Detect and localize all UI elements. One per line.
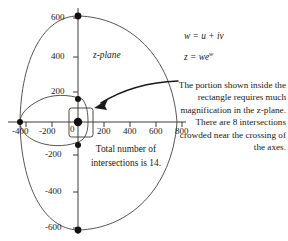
x-tick-label-200: 200 bbox=[97, 126, 111, 136]
axes-group bbox=[8, 8, 186, 234]
equation-z: z = wew bbox=[184, 45, 284, 66]
callout-arrow bbox=[101, 81, 178, 103]
y-tick-label-600: 600 bbox=[51, 12, 65, 22]
y-tick-label--200: -200 bbox=[45, 149, 62, 159]
dot-left bbox=[17, 119, 23, 125]
dot-lower bbox=[75, 142, 81, 148]
x-tick-label-400: 400 bbox=[123, 126, 137, 136]
outer-oval-curve bbox=[20, 16, 177, 230]
y-tick-label-400: 400 bbox=[51, 51, 65, 61]
equation-w: w = u + iv bbox=[184, 27, 284, 45]
x-tick-label-0: 0 bbox=[70, 124, 75, 134]
dot-upper bbox=[75, 96, 81, 102]
y-tick-label--600: -600 bbox=[45, 222, 62, 232]
x-tick-label--200: -200 bbox=[39, 126, 56, 136]
side-note: The portion shown inside the rectangle r… bbox=[176, 79, 286, 153]
z-plane-label: z-plane bbox=[93, 50, 121, 60]
y-tick-label--400: -400 bbox=[45, 186, 62, 196]
callout-arrowhead bbox=[94, 99, 108, 110]
intersection-dots bbox=[17, 13, 82, 234]
x-tick-label-600: 600 bbox=[149, 126, 163, 136]
y-tick-label-200: 200 bbox=[51, 86, 65, 96]
dot-origin bbox=[74, 118, 82, 126]
x-tick-label--400: -400 bbox=[12, 126, 29, 136]
dot-bottom bbox=[75, 227, 82, 234]
dot-top bbox=[75, 13, 82, 20]
intersection-count-note: Total number of intersections is 14. bbox=[84, 143, 168, 170]
equation-block: w = u + iv z = wew bbox=[184, 27, 284, 66]
